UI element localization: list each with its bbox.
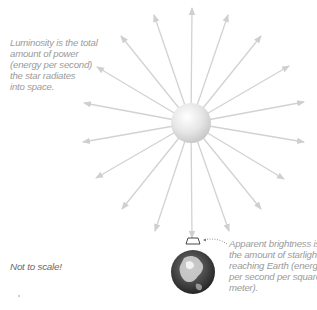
apparent-brightness-caption: Apparent brightness is the amount of sta…: [229, 238, 317, 293]
luminosity-caption: Luminosity is the total amount of power …: [10, 37, 98, 92]
brightness-line: the amount of starlight: [229, 249, 317, 260]
luminosity-line: the star radiates: [10, 70, 98, 81]
luminosity-line: into space.: [10, 81, 98, 92]
not-to-scale-note: Not to scale!: [10, 261, 62, 272]
brightness-line: reaching Earth (energy: [229, 260, 317, 271]
brightness-line: meter).: [229, 282, 317, 293]
brightness-line: Apparent brightness is: [229, 238, 317, 249]
brightness-line: per second per square: [229, 271, 317, 282]
luminosity-line: (energy per second): [10, 59, 98, 70]
luminosity-diagram: Luminosity is the total amount of power …: [0, 0, 317, 310]
speck-mark: [18, 295, 20, 297]
luminosity-line: amount of power: [10, 48, 98, 59]
detector-box: [186, 238, 200, 244]
dotted-pointer: [203, 239, 227, 244]
earth-globe: [171, 250, 215, 294]
luminosity-line: Luminosity is the total: [10, 37, 98, 48]
star-sphere: [171, 103, 211, 143]
